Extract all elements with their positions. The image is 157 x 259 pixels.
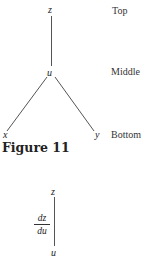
edge-u-y — [55, 77, 94, 131]
chain-node-z: z — [51, 187, 55, 197]
level-label-middle: Middle — [111, 67, 140, 77]
node-u: u — [47, 68, 52, 78]
derivative-denominator: du — [37, 226, 47, 236]
node-y: y — [95, 130, 99, 140]
node-z: z — [48, 5, 52, 15]
level-label-bottom: Bottom — [111, 130, 141, 140]
level-label-top: Top — [112, 6, 127, 16]
derivative-numerator: dz — [38, 213, 46, 223]
fraction-bar — [34, 224, 50, 225]
figure-caption: Figure 11 — [2, 141, 70, 154]
node-x: x — [3, 130, 7, 140]
edge-u-x — [7, 77, 47, 131]
chain-node-u: u — [51, 248, 56, 258]
derivative-fraction: dz du — [34, 213, 50, 236]
